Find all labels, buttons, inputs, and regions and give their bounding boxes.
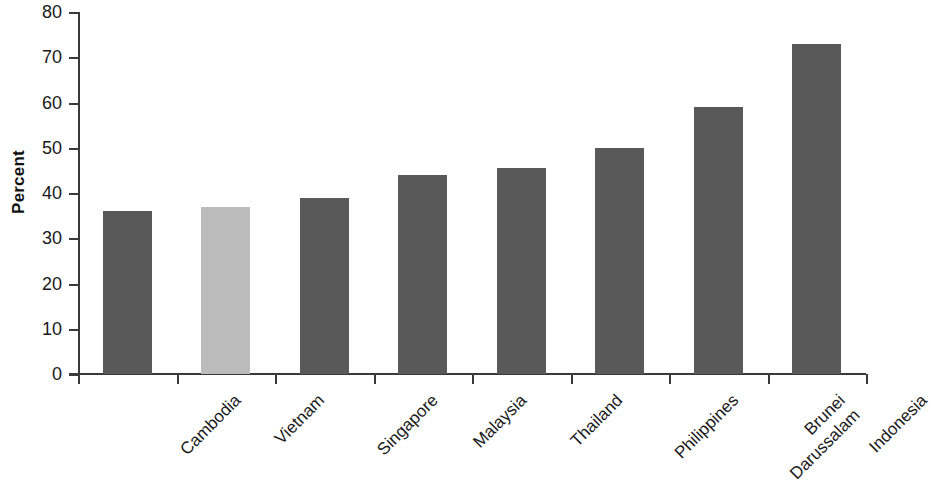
x-axis-label: Malaysia [468, 390, 530, 452]
x-axis-tick-mark [768, 374, 770, 384]
x-axis-label-line: Indonesia [865, 391, 931, 457]
x-axis-tick-mark [669, 374, 671, 384]
bar [398, 175, 447, 374]
x-axis-label: Thailand [566, 390, 627, 451]
x-axis-tick-mark [275, 374, 277, 384]
x-axis-label: Indonesia [864, 390, 931, 457]
x-axis-label: Philippines [670, 390, 743, 463]
bar [694, 107, 743, 374]
y-axis-tick-label: 60 [14, 94, 62, 112]
bar [792, 44, 841, 374]
bar [201, 207, 250, 374]
bar [497, 168, 546, 374]
x-axis-tick-mark [374, 374, 376, 384]
bar [300, 198, 349, 374]
y-axis-tick-label: 40 [14, 184, 62, 202]
y-axis-tick-label: 70 [14, 48, 62, 66]
x-axis-label-line: Vietnam [271, 391, 328, 448]
y-axis-tick-label: 50 [14, 139, 62, 157]
x-axis-tick-mark [78, 374, 80, 384]
x-axis-label: Cambodia [176, 390, 246, 460]
x-axis-label-line: Cambodia [177, 391, 245, 459]
y-axis-tick-label: 80 [14, 3, 62, 21]
y-axis-tick-label: 10 [14, 320, 62, 338]
bar [595, 148, 644, 374]
y-axis-tick-label: 30 [14, 229, 62, 247]
y-axis-tick-label: 0 [14, 365, 62, 383]
plot-area [78, 12, 866, 374]
x-axis-label: Singapore [373, 390, 443, 460]
x-axis-label-line: Singapore [374, 391, 442, 459]
x-axis-tick-mark [472, 374, 474, 384]
x-axis-tick-mark [177, 374, 179, 384]
x-axis-label-line: Malaysia [469, 391, 530, 452]
x-axis-label-line: Philippines [671, 391, 743, 463]
x-axis-label-line: Thailand [567, 391, 627, 451]
x-axis-label: BruneiDarussalam [771, 390, 865, 484]
bar [103, 211, 152, 374]
x-axis-tick-mark [571, 374, 573, 384]
y-axis-tick-label: 20 [14, 275, 62, 293]
x-axis-tick-mark [866, 374, 868, 384]
x-axis-label: Vietnam [270, 390, 329, 449]
